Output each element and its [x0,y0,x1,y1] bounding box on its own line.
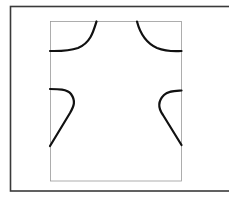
top-left-curve [50,22,97,52]
left-middle-curve [50,89,74,146]
inner-rectangle [51,22,182,182]
outer-frame [11,7,230,192]
diagram-canvas [0,0,229,198]
top-right-curve [137,22,182,52]
right-middle-curve [159,91,181,146]
curve-group [50,22,182,147]
